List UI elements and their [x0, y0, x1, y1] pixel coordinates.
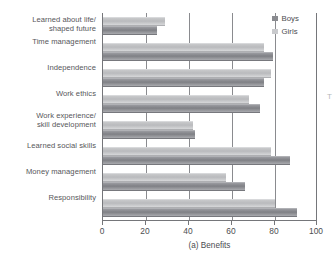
category-label: Money management [0, 167, 96, 176]
category-axis-labels: Learned about life/ shaped future Time m… [0, 13, 99, 221]
bars-layer [103, 13, 316, 220]
x-axis-title: (a) Benefits [102, 241, 317, 250]
cropped-edge-text: T [327, 92, 332, 101]
bar-boys [103, 78, 264, 87]
chart-legend: Boys Girls [272, 13, 324, 39]
xtick-mark [316, 221, 317, 225]
boys-swatch-icon [272, 16, 278, 22]
plot-area [102, 13, 317, 221]
xtick-mark [102, 221, 103, 225]
legend-label-girls: Girls [282, 27, 298, 36]
category-label: Learned about life/ shaped future [0, 15, 96, 33]
bar-boys [103, 208, 297, 217]
bar-boys [103, 52, 273, 61]
xtick-mark [274, 221, 275, 225]
bar-boys [103, 156, 290, 165]
category-label: Time management [0, 37, 96, 46]
xtick-mark [145, 221, 146, 225]
bar-boys [103, 26, 157, 35]
legend-item-boys: Boys [272, 13, 324, 24]
xtick-label: 40 [183, 226, 192, 236]
category-label: Responsibility [0, 193, 96, 202]
legend-label-boys: Boys [282, 14, 299, 23]
xtick-label: 80 [269, 226, 278, 236]
category-label: Independence [0, 63, 96, 72]
xtick-label: 20 [140, 226, 149, 236]
legend-item-girls: Girls [272, 26, 324, 37]
xtick-label: 100 [309, 226, 323, 236]
category-label: Work experience/ skill development [0, 111, 96, 129]
xtick-label: 0 [100, 226, 105, 236]
category-label: Learned social skills [0, 141, 96, 150]
category-label: Work ethics [0, 89, 96, 98]
xtick-mark [188, 221, 189, 225]
bar-boys [103, 130, 195, 139]
xtick-label: 60 [226, 226, 235, 236]
benefits-bar-chart: Learned about life/ shaped future Time m… [0, 0, 336, 264]
xtick-mark [231, 221, 232, 225]
bar-boys [103, 182, 245, 191]
bar-boys [103, 104, 260, 113]
girls-swatch-icon [272, 29, 278, 35]
